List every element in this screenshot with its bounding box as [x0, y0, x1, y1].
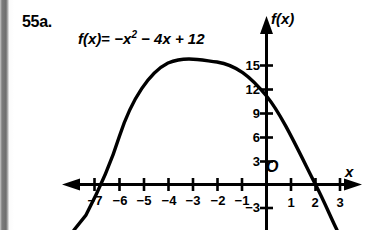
x-axis-label: x [345, 163, 353, 180]
x-tick-label--4: −4 [156, 194, 182, 207]
y-axis [260, 16, 273, 230]
worksheet-page: 55a. f(x)= −x2 − 4x + 12 [0, 0, 369, 230]
x-tick-label--7: −7 [82, 194, 108, 207]
x-axis-arrow-right [344, 179, 362, 191]
x-tick-label--3: −3 [180, 194, 206, 207]
x-tick-label-3: 3 [330, 196, 350, 209]
x-tick-label--6: −6 [107, 194, 133, 207]
x-tick-label-2: 2 [305, 196, 325, 209]
y-tick-label-9: 9 [236, 107, 260, 120]
x-tick-label-1: 1 [281, 196, 301, 209]
y-tick-label-3: 3 [236, 155, 260, 168]
y-tick-label-15: 15 [236, 59, 260, 72]
y-axis-label: f(x) [271, 10, 294, 27]
x-axis-arrow-left [62, 179, 80, 191]
origin-label: O [266, 158, 278, 176]
y-tick-label-6: 6 [236, 131, 260, 144]
x-tick-label--2: −2 [205, 194, 231, 207]
x-tick-label--5: −5 [131, 194, 157, 207]
y-tick-label--3: −3 [232, 201, 260, 214]
y-tick-label-12: 12 [236, 83, 260, 96]
